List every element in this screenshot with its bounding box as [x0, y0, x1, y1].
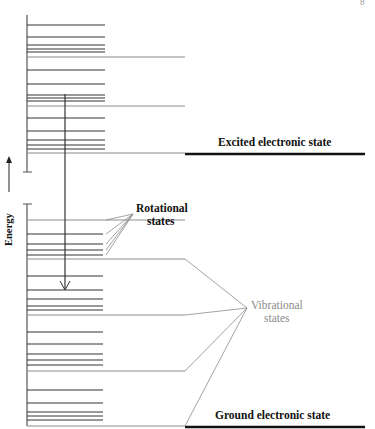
ground-manifold: Ground electronic state	[23, 204, 365, 427]
rotational-label-line2: states	[147, 215, 175, 227]
energy-axis-label: Energy	[3, 213, 14, 246]
vibrational-states-pointer	[185, 259, 247, 426]
rotational-label-line1: Rotational	[136, 202, 188, 214]
excited-vibrational-levels	[27, 57, 185, 153]
excited-state-label: Excited electronic state	[218, 136, 331, 148]
ground-vibrational-levels	[27, 220, 185, 426]
vibrational-pointer-line	[185, 259, 247, 308]
excited-rotational-levels	[27, 25, 105, 149]
excited-manifold: Excited electronic state	[23, 15, 365, 172]
ground-state-label: Ground electronic state	[215, 409, 330, 421]
energy-arrow-head-icon	[6, 156, 12, 163]
rotational-pointer-line	[106, 214, 133, 244]
energy-level-diagram: 8 Energy Excited electronic state Ground…	[0, 0, 375, 429]
vibrational-label-line1: Vibrational	[251, 299, 303, 311]
transition-arrow	[60, 94, 70, 290]
vibrational-label-line2: states	[264, 312, 290, 324]
energy-axis: Energy	[3, 156, 14, 246]
vibrational-pointer-line	[185, 308, 247, 315]
page-number-fragment: 8	[360, 0, 365, 7]
vibrational-pointer-line	[185, 308, 247, 371]
